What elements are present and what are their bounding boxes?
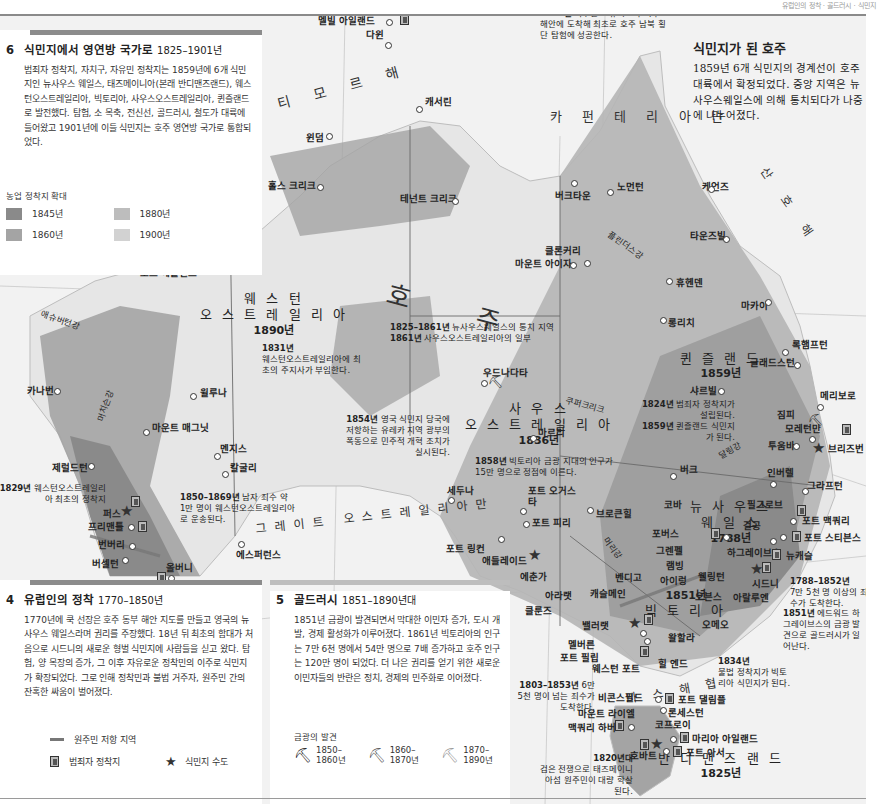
bottom-rule <box>0 798 866 799</box>
panel-colonies-to-federation: 6식민지에서 영연방 국가로1825–1901년 범죄자 정착지, 자치구, 자… <box>0 30 262 275</box>
place-point <box>122 557 129 564</box>
place-point <box>644 638 651 645</box>
place-peel-grove: 필그로브 <box>747 500 783 511</box>
place-cloncurry: 클론커리 <box>545 246 581 257</box>
place-wellington: 웰링턴 <box>698 572 725 583</box>
place-point <box>666 278 673 285</box>
place-point <box>238 541 245 548</box>
convict-icon <box>615 720 624 731</box>
place-mackay: 마카이 <box>741 301 768 312</box>
place-moreton-bay: 모레턴만 <box>785 424 821 435</box>
place-darwin: 다윈 <box>366 30 384 41</box>
legend-gold-1860: ⛏1860–1870년 <box>368 745 420 765</box>
place-point <box>523 521 530 528</box>
place-point <box>793 443 800 450</box>
place-inverell: 인버렐 <box>767 468 794 479</box>
place-geraldton: 제럴드턴 <box>52 463 88 474</box>
place-point <box>498 536 505 543</box>
note-1831: 1831년웨스턴오스트레일리아에 최초의 주지사가 부임한다. <box>262 343 362 376</box>
convict-icon <box>644 614 653 625</box>
place-point <box>794 362 801 369</box>
place-fremantle: 프리맨틀 <box>88 522 124 533</box>
note-1854: 1854년 영국 식민지 당국에 저항하는 유레카 지역 광부의 폭동으로 민주… <box>345 414 450 458</box>
place-point <box>660 317 667 324</box>
panel-european-settlement: 4유럽인의 정착1770–1850년 1770년에 쿡 선장은 호주 동부 해안… <box>0 580 262 809</box>
place-point <box>214 453 221 460</box>
place-point <box>190 393 197 400</box>
convict-icon <box>711 528 720 539</box>
panel-title: 6식민지에서 영연방 국가로1825–1901년 <box>6 41 262 57</box>
place-newcastle: 뉴캐슬 <box>786 551 813 562</box>
place-halls-creek: 홀스 크리크 <box>268 181 316 192</box>
place-point <box>520 508 527 515</box>
place-mount-magnet: 마운트 매그닛 <box>152 423 209 434</box>
intro-title: 식민지가 된 호주 <box>693 38 863 57</box>
convict-icon <box>842 424 851 435</box>
convict-icon <box>772 549 781 560</box>
place-melville-island: 멜빌 아일랜드 <box>318 16 375 27</box>
place-walhalla: 왈할라 <box>668 633 695 644</box>
convict-icon <box>665 693 674 704</box>
place-point <box>143 429 150 436</box>
legend-settlement: 원주민 저항 지역 범죄자 정착지 ★식민지 수도 <box>50 733 262 769</box>
place-port-lincoln: 포트 링컨 <box>446 544 485 555</box>
place-point <box>670 473 677 480</box>
note-1851: 1851년 에드워드 하그레이브스의 금광 발견으로 골드러시가 일어난다. <box>783 608 863 652</box>
capital-star-icon: ★ <box>528 548 541 563</box>
place-point <box>128 524 135 531</box>
place-ovens: 오븐스 <box>695 592 722 603</box>
legend-gold-1870: ⛏1870–1890년 <box>441 745 493 765</box>
place-point <box>782 349 789 356</box>
place-point <box>385 42 392 49</box>
place-point <box>663 748 670 755</box>
note-1820s: 1820년대검은 전쟁으로 태즈메이니아섬 원주민이 대량 학살된다. <box>538 753 633 797</box>
place-point <box>416 106 423 113</box>
intro-block: 식민지가 된 호주 1859년 6개 식민지의 경계선이 호주 대륙에서 확정되… <box>693 38 863 124</box>
place-gladstone: 글래드스턴 <box>750 358 795 369</box>
place-toowoomba: 투움바 <box>768 441 795 452</box>
place-rockhampton: 록햄프턴 <box>792 340 828 351</box>
place-tennant-creek: 테넌트 크리크 <box>400 194 457 205</box>
capital-star-icon: ★ <box>628 616 641 631</box>
place-hobart: 호바트 <box>630 751 657 762</box>
gold-pick-icon: ⛏ <box>488 376 503 388</box>
pick-icon: ⛏ <box>441 747 459 763</box>
place-carnarvon: 카나번 <box>27 386 54 397</box>
place-point <box>587 507 594 514</box>
place-port-stephens: 포트 스티븐스 <box>804 533 861 544</box>
note-1834: 1834년불법 정착지가 빅토리아 식민지가 된다. <box>718 656 793 689</box>
legend-resistance: 원주민 저항 지역 <box>50 733 262 746</box>
place-point <box>723 236 730 243</box>
place-araluen: 아랄루엔 <box>733 593 769 604</box>
place-point <box>802 488 809 495</box>
note-1803-1853: 1803–1853년 6만 5천 명이 넘는 죄수가 도착한다. <box>515 680 595 713</box>
legend-item-1860: 1860년 <box>6 228 114 241</box>
place-port-arthur: 포트 아서 <box>686 748 725 759</box>
place-lambing: 램빙 <box>666 561 684 572</box>
place-busselton: 버셀턴 <box>92 559 119 570</box>
place-sydney: 시드니 <box>752 579 779 590</box>
place-zeehan: 코프로이 <box>655 720 691 731</box>
place-omeo: 오메오 <box>702 620 729 631</box>
place-point <box>780 534 787 541</box>
convict-icon <box>640 646 649 657</box>
place-hughenden: 휴헨덴 <box>676 278 703 289</box>
place-point <box>570 262 577 269</box>
place-point <box>607 189 614 196</box>
place-point <box>54 388 61 395</box>
place-port-macquarie: 포트 맥쿼리 <box>802 516 850 527</box>
convict-icon <box>400 14 409 25</box>
panel-body: 범죄자 정착지, 자치구, 자유민 정착지는 1859년에 6개 식민지인 뉴사… <box>24 63 254 149</box>
place-point <box>718 388 725 395</box>
place-gulgong: 걸공 <box>743 521 761 532</box>
place-point <box>571 180 578 187</box>
pick-icon: ⛏ <box>294 747 312 763</box>
place-melbourne: 멜버른 <box>568 640 595 651</box>
place-adelaide: 애들레이드 <box>482 556 527 567</box>
place-point <box>770 481 777 488</box>
region-western-australia: 웨 스 턴 오 스 트 레 일 리 아 1890년 <box>200 291 348 337</box>
place-mount-isa: 마운트 아이자 <box>515 259 572 270</box>
panel-bar <box>30 580 262 585</box>
legend-item-1880: 1880년 <box>114 207 222 220</box>
place-point <box>770 538 777 545</box>
